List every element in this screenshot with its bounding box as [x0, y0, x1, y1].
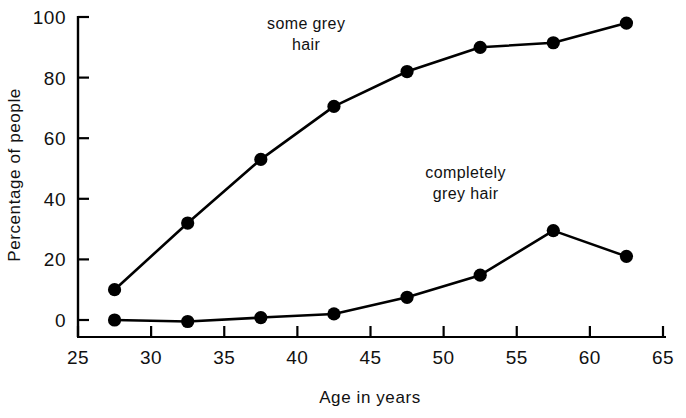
- data-point-marker: [620, 16, 633, 29]
- x-tick-label: 25: [67, 347, 89, 368]
- x-tick-label: 40: [286, 347, 308, 368]
- series-line: [115, 231, 627, 322]
- x-tick-label: 55: [506, 347, 528, 368]
- series-1: [108, 16, 633, 296]
- data-point-marker: [181, 216, 194, 229]
- series-line: [115, 23, 627, 290]
- data-point-marker: [181, 315, 194, 328]
- x-tick-label: 60: [579, 347, 601, 368]
- x-tick-label: 45: [359, 347, 381, 368]
- series-label-line2: grey hair: [433, 185, 499, 202]
- y-axis-title: Percentage of people: [5, 88, 24, 262]
- data-point-marker: [254, 311, 267, 324]
- data-point-marker: [254, 153, 267, 166]
- axis-ticks-group: [78, 17, 663, 337]
- y-tick-label: 40: [44, 189, 66, 210]
- data-point-marker: [400, 291, 413, 304]
- line-chart-plot: 253035404550556065 020406080100 some gre…: [0, 0, 686, 418]
- data-point-marker: [474, 41, 487, 54]
- y-tick-label: 60: [44, 128, 66, 149]
- data-point-marker: [400, 65, 413, 78]
- x-tick-label: 65: [652, 347, 674, 368]
- y-tick-label: 100: [33, 7, 66, 28]
- series-label-line1: completely: [425, 164, 505, 181]
- data-point-marker: [547, 36, 560, 49]
- x-tick-label: 35: [213, 347, 235, 368]
- data-point-marker: [108, 283, 121, 296]
- data-point-marker: [108, 313, 121, 326]
- y-tick-labels: 020406080100: [33, 7, 66, 331]
- data-point-marker: [327, 307, 340, 320]
- series-label-line1: some grey: [267, 15, 345, 32]
- data-point-marker: [327, 100, 340, 113]
- x-tick-label: 30: [140, 347, 162, 368]
- x-axis-title: Age in years: [319, 388, 421, 407]
- axes-group: [77, 16, 666, 337]
- data-point-marker: [620, 250, 633, 263]
- y-tick-label: 80: [44, 68, 66, 89]
- series-annotations-group: some greyhaircompletelygrey hair: [267, 15, 506, 201]
- y-tick-label: 0: [55, 310, 66, 331]
- chart-container: 253035404550556065 020406080100 some gre…: [0, 0, 686, 418]
- y-tick-label: 20: [44, 249, 66, 270]
- x-tick-labels: 253035404550556065: [67, 347, 674, 368]
- data-point-marker: [474, 269, 487, 282]
- x-tick-label: 50: [433, 347, 455, 368]
- series-2: [108, 224, 633, 328]
- series-label-line2: hair: [292, 36, 321, 53]
- data-point-marker: [547, 224, 560, 237]
- data-series-group: [108, 16, 633, 328]
